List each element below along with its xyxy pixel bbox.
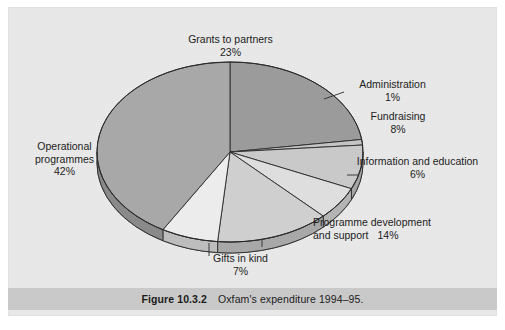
slice-label-fundraising-name: Fundraising bbox=[371, 110, 426, 122]
pie-slice-grants-to-partners bbox=[230, 62, 362, 152]
slice-label-administration-pct: 1% bbox=[330, 91, 455, 104]
slice-label-gifts-in-kind: Gifts in kind 7% bbox=[173, 252, 308, 277]
slice-label-operational-programmes: Operational programmes 42% bbox=[12, 140, 117, 178]
slice-label-operational-programmes-pct: 42% bbox=[12, 165, 117, 178]
slice-label-gifts-in-kind-pct: 7% bbox=[173, 265, 308, 278]
pie-slices bbox=[97, 62, 363, 242]
slice-label-fundraising: Fundraising 8% bbox=[343, 110, 453, 135]
slice-label-operational-programmes-line2: programmes bbox=[12, 153, 117, 166]
figure-number: Figure 10.3.2 bbox=[142, 293, 208, 305]
slice-label-information-and-education-name: Information and education bbox=[357, 155, 478, 167]
slice-label-information-and-education: Information and education 6% bbox=[330, 155, 505, 180]
slice-label-information-and-education-pct: 6% bbox=[330, 168, 505, 181]
slice-label-fundraising-pct: 8% bbox=[343, 123, 453, 136]
slice-label-grants-to-partners-name: Grants to partners bbox=[188, 33, 273, 45]
slice-label-programme-development-line2: and support bbox=[313, 229, 368, 241]
figure-oxfam-expenditure: Grants to partners 23% Administration 1%… bbox=[0, 0, 505, 330]
slice-label-programme-development-line1: Programme development bbox=[313, 216, 431, 228]
slice-label-gifts-in-kind-name: Gifts in kind bbox=[213, 252, 268, 264]
slice-label-programme-development-and-support: Programme development and support14% bbox=[313, 216, 498, 241]
slice-label-grants-to-partners-pct: 23% bbox=[143, 46, 318, 59]
slice-label-grants-to-partners: Grants to partners 23% bbox=[143, 33, 318, 58]
slice-label-programme-development-pct: 14% bbox=[368, 229, 398, 241]
slice-label-administration-name: Administration bbox=[359, 78, 426, 90]
figure-caption: Figure 10.3.2 Oxfam's expenditure 1994–9… bbox=[8, 288, 497, 310]
slice-label-operational-programmes-line1: Operational bbox=[37, 140, 91, 152]
figure-caption-text: Oxfam's expenditure 1994–95. bbox=[218, 293, 363, 305]
slice-label-administration: Administration 1% bbox=[330, 78, 455, 103]
